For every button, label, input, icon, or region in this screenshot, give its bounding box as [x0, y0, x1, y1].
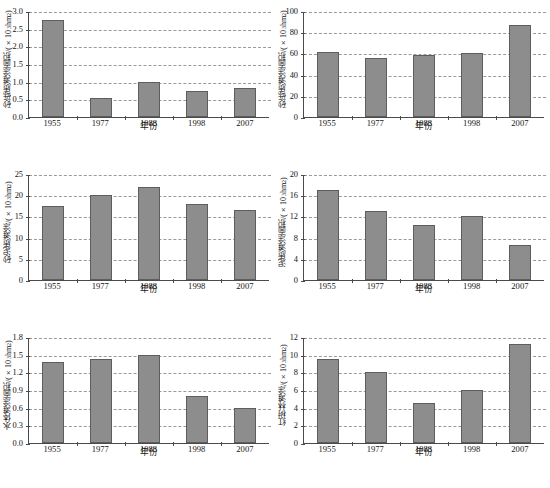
y-tick-label: 0 [294, 114, 298, 122]
bar[interactable] [90, 98, 112, 117]
y-tick-labels: 1.81.51.20.90.60.30.0 [2, 338, 26, 444]
y-tick-label: 0.0 [13, 114, 23, 122]
bar-slot [221, 338, 269, 443]
bar-slot [173, 12, 221, 117]
y-tick-label: 8 [294, 369, 298, 377]
bar[interactable] [138, 82, 160, 117]
bar-slot [173, 338, 221, 443]
bar[interactable] [365, 58, 387, 117]
bar[interactable] [509, 25, 531, 117]
y-tick-label: 100 [285, 8, 298, 16]
bar[interactable] [138, 355, 160, 443]
bar[interactable] [413, 403, 435, 443]
bars-layer [29, 12, 269, 117]
bars-layer [29, 175, 269, 280]
bar[interactable] [234, 408, 256, 443]
y-tick-label: 2 [294, 422, 298, 430]
chart-panel-4: 泥质滩涂面积/(×103 hm2)20161284019551977198819… [275, 163, 550, 326]
y-tick-label: 15 [15, 213, 23, 221]
y-tick-label: 0.6 [13, 404, 23, 412]
y-tick-label: 0.5 [13, 96, 23, 104]
bar-slot [304, 12, 352, 117]
bar[interactable] [413, 225, 435, 280]
bar-slot [221, 12, 269, 117]
y-tick-label: 60 [290, 50, 298, 58]
bar-slot [448, 175, 496, 280]
y-tick-label: 20 [15, 192, 23, 200]
bar[interactable] [234, 210, 256, 280]
y-tick-labels: 2520151050 [2, 175, 26, 281]
bar-slot [400, 12, 448, 117]
bar[interactable] [42, 20, 64, 117]
bar-slot [29, 12, 77, 117]
y-tick-label: 0.0 [13, 440, 23, 448]
y-tick-label: 1.5 [13, 351, 23, 359]
y-tick-label: 40 [290, 71, 298, 79]
y-tick-label: 0 [294, 277, 298, 285]
bar[interactable] [365, 211, 387, 280]
y-tick-label: 2.5 [13, 25, 23, 33]
bar[interactable] [461, 53, 483, 117]
bar[interactable] [509, 245, 531, 280]
bar[interactable] [42, 362, 64, 443]
y-tick-label: 80 [290, 29, 298, 37]
y-tick-label: 0.9 [13, 387, 23, 395]
y-tick-labels: 121086420 [277, 338, 301, 444]
y-tick-label: 20 [290, 171, 298, 179]
chart-panel-6: 红树林滩涂/(×103 hm2)121086420195519771988199… [275, 326, 550, 488]
bar-slot [352, 175, 400, 280]
plot-area [303, 12, 544, 118]
bar-slot [77, 175, 125, 280]
y-tick-labels: 100806040200 [277, 12, 301, 118]
bars-layer [304, 12, 544, 117]
x-axis-title: 年份 [28, 448, 269, 457]
y-tick-label: 1.8 [13, 334, 23, 342]
bar-slot [496, 175, 544, 280]
y-tick-label: 3.0 [13, 8, 23, 16]
bar[interactable] [317, 52, 339, 117]
bar[interactable] [365, 372, 387, 443]
bar[interactable] [317, 359, 339, 443]
chart-panel-2: 砂砾质滩涂面积/(×103 hm2)1008060402001955197719… [275, 0, 550, 163]
plot-area [303, 338, 544, 444]
y-tick-label: 20 [290, 93, 298, 101]
y-tick-label: 12 [290, 213, 298, 221]
charts-grid: 砂砾质滩涂面积/(×103 hm2)3.02.52.01.51.00.50.01… [0, 0, 550, 488]
bar[interactable] [138, 187, 160, 280]
plot-wrapper: 12108642019551977198819982007 [303, 338, 544, 444]
bar-slot [304, 338, 352, 443]
bar-slot [77, 12, 125, 117]
y-tick-label: 8 [294, 234, 298, 242]
x-axis-title: 年份 [303, 448, 544, 457]
bar[interactable] [413, 55, 435, 117]
bars-layer [304, 338, 544, 443]
y-tick-labels: 3.02.52.01.51.00.50.0 [2, 12, 26, 118]
bar-slot [352, 338, 400, 443]
bar[interactable] [461, 216, 483, 280]
bar[interactable] [317, 190, 339, 280]
y-tick-label: 4 [294, 256, 298, 264]
bar[interactable] [186, 91, 208, 118]
bar[interactable] [42, 206, 64, 280]
y-tick-label: 2.0 [13, 43, 23, 51]
bar[interactable] [186, 396, 208, 443]
bar[interactable] [90, 195, 112, 280]
bar-slot [496, 338, 544, 443]
bar-slot [77, 338, 125, 443]
bar[interactable] [234, 88, 256, 117]
y-tick-label: 0 [19, 277, 23, 285]
bar-slot [304, 175, 352, 280]
bar[interactable] [90, 359, 112, 443]
bar[interactable] [461, 390, 483, 443]
y-tick-labels: 201612840 [277, 175, 301, 281]
bar-slot [352, 12, 400, 117]
y-tick-label: 12 [290, 334, 298, 342]
chart-panel-5: 水体滩涂面积/(×103 hm2)1.81.51.20.90.60.30.019… [0, 326, 275, 488]
bar[interactable] [509, 344, 531, 443]
bar[interactable] [186, 204, 208, 280]
y-tick-label: 0 [294, 440, 298, 448]
y-tick-label: 1.5 [13, 61, 23, 69]
bar-slot [29, 338, 77, 443]
plot-area [28, 12, 269, 118]
bar-slot [448, 338, 496, 443]
